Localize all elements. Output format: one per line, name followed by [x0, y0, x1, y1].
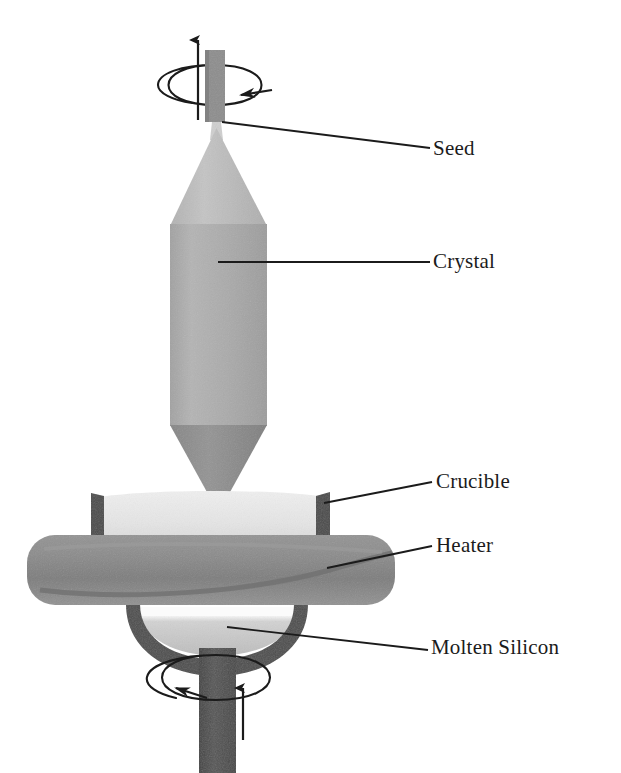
seed-assembly: [158, 40, 272, 122]
crucible-leader-line: [324, 482, 432, 503]
crucible-wall-left: [91, 493, 104, 540]
seed-leader-line: [222, 122, 430, 148]
label-crystal: Crystal: [433, 251, 495, 272]
label-crucible: Crucible: [436, 471, 510, 492]
crucible-wall-right: [316, 492, 330, 540]
crystal-assembly: [170, 122, 267, 513]
crucible-bowl: [100, 491, 325, 540]
crystal-body: [170, 224, 267, 426]
bottom-shaft: [199, 648, 236, 773]
seed-rod-edge-shade: [205, 50, 209, 122]
label-seed: Seed: [433, 138, 475, 159]
crystal-top-cone: [170, 128, 267, 226]
melt-highlight: [142, 607, 293, 616]
label-molten-silicon: Molten Silicon: [431, 637, 559, 658]
czochralski-diagram: Seed Crystal Crucible Heater Molten Sili…: [0, 0, 621, 773]
label-heater: Heater: [436, 535, 493, 556]
